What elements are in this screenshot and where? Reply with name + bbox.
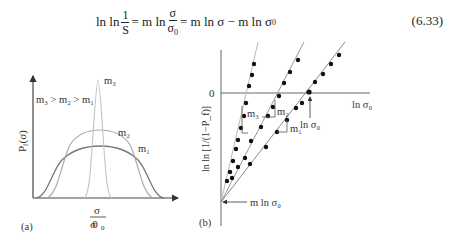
panel-b: 0 ln σ₀	[199, 42, 372, 229]
slope-triangle-m1	[277, 120, 287, 132]
ln-sigma0-annotation: ln σ₀	[300, 119, 320, 130]
panel-b-ylabel: ln ln [1/(1−P_f)]	[200, 106, 212, 172]
svg-text:σ: σ	[90, 218, 96, 230]
panel-a-inequality: m₃ > m₂ > m₁	[36, 94, 94, 105]
curve-m2	[46, 130, 154, 198]
panel-a-xlabel-num: σ	[94, 204, 100, 216]
panel-a-label: (a)	[21, 221, 33, 233]
curve-label-m1: m₁	[138, 143, 150, 154]
slope-label-m2: m₂	[277, 106, 289, 117]
panel-b-zero-label: 0	[209, 87, 215, 99]
svg-text:0: 0	[101, 224, 105, 232]
slope-label-m3: m₃	[247, 108, 259, 119]
panel-b-label: (b)	[199, 217, 212, 229]
panel-a-ylabel: Pf(σ)	[16, 130, 30, 152]
panel-b-xaxis-label: ln σ₀	[352, 99, 372, 110]
curve-label-m3: m₃	[104, 75, 116, 86]
panel-a: m₃ > m₂ > m₁ m₃ m₂ m₁ Pf(σ) σ 0 σ 0 (a)	[16, 75, 178, 233]
intercept-annotation: m ln σ₀	[250, 197, 281, 208]
curve-label-m2: m₂	[118, 127, 130, 138]
figure: m₃ > m₂ > m₁ m₃ m₂ m₁ Pf(σ) σ 0 σ 0 (a) …	[0, 0, 463, 243]
